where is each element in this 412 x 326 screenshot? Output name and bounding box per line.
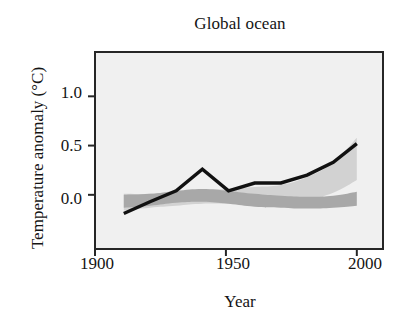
chart-figure: Global ocean Temperature anomaly (°C) Ye… <box>0 0 412 326</box>
plot-canvas <box>0 0 412 326</box>
plot-background <box>95 52 383 249</box>
